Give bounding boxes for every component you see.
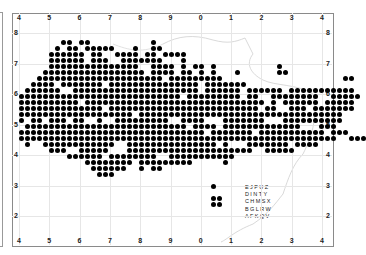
data-point-dot: [55, 112, 60, 117]
data-point-dot: [103, 58, 108, 63]
data-point-dot: [127, 136, 132, 141]
data-point-dot: [199, 154, 204, 159]
data-point-dot: [85, 76, 90, 81]
data-point-dot: [193, 112, 198, 117]
data-point-dot: [235, 148, 240, 153]
data-point-dot: [193, 64, 198, 69]
data-point-dot: [43, 112, 48, 117]
x-tick-label-bottom: 4: [17, 237, 21, 244]
data-point-dot: [85, 148, 90, 153]
data-point-dot: [103, 160, 108, 165]
data-point-dot: [307, 142, 312, 147]
data-point-dot: [253, 100, 258, 105]
data-point-dot: [109, 136, 114, 141]
data-point-dot: [349, 94, 354, 99]
data-point-dot: [301, 100, 306, 105]
data-point-dot: [91, 124, 96, 129]
data-point-dot: [109, 76, 114, 81]
data-point-dot: [79, 88, 84, 93]
data-point-dot: [157, 112, 162, 117]
data-point-dot: [307, 118, 312, 123]
data-point-dot: [181, 112, 186, 117]
data-point-dot: [271, 130, 276, 135]
data-point-dot: [115, 154, 120, 159]
data-point-dot: [67, 112, 72, 117]
data-point-dot: [307, 100, 312, 105]
data-point-dot: [151, 94, 156, 99]
data-point-dot: [157, 124, 162, 129]
data-point-dot: [163, 94, 168, 99]
data-point-dot: [145, 142, 150, 147]
data-point-dot: [127, 64, 132, 69]
data-point-dot: [349, 88, 354, 93]
data-point-dot: [19, 130, 24, 135]
data-point-dot: [43, 106, 48, 111]
data-point-dot: [247, 106, 252, 111]
data-point-dot: [67, 82, 72, 87]
data-point-dot: [283, 124, 288, 129]
data-point-dot: [73, 46, 78, 51]
data-point-dot: [277, 124, 282, 129]
data-point-dot: [205, 154, 210, 159]
data-point-dot: [301, 112, 306, 117]
data-point-dot: [145, 52, 150, 57]
data-point-dot: [169, 106, 174, 111]
data-point-dot: [313, 136, 318, 141]
data-point-dot: [181, 88, 186, 93]
data-point-dot: [271, 136, 276, 141]
data-point-dot: [241, 106, 246, 111]
data-point-dot: [97, 172, 102, 177]
data-point-dot: [289, 124, 294, 129]
data-point-dot: [223, 112, 228, 117]
data-point-dot: [139, 100, 144, 105]
data-point-dot: [151, 46, 156, 51]
x-tick-label-bottom: 8: [138, 237, 142, 244]
data-point-dot: [253, 136, 258, 141]
data-point-dot: [67, 46, 72, 51]
data-point-dot: [121, 136, 126, 141]
data-point-dot: [211, 82, 216, 87]
data-point-dot: [49, 118, 54, 123]
data-point-dot: [301, 142, 306, 147]
data-point-dot: [79, 58, 84, 63]
data-point-dot: [97, 160, 102, 165]
data-point-dot: [151, 76, 156, 81]
data-point-dot: [169, 52, 174, 57]
data-point-dot: [91, 142, 96, 147]
data-point-dot: [67, 106, 72, 111]
data-point-dot: [211, 130, 216, 135]
data-point-dot: [307, 130, 312, 135]
data-point-dot: [67, 70, 72, 75]
data-point-dot: [193, 136, 198, 141]
data-point-dot: [79, 130, 84, 135]
data-point-dot: [307, 136, 312, 141]
data-point-dot: [91, 58, 96, 63]
data-point-dot: [169, 88, 174, 93]
data-point-dot: [127, 154, 132, 159]
reference-code-row: DINTY: [245, 191, 272, 198]
data-point-dot: [85, 136, 90, 141]
data-point-dot: [175, 124, 180, 129]
data-point-dot: [229, 112, 234, 117]
data-point-dot: [175, 142, 180, 147]
data-point-dot: [247, 118, 252, 123]
data-point-dot: [127, 142, 132, 147]
data-point-dot: [211, 124, 216, 129]
data-point-dot: [121, 118, 126, 123]
data-point-dot: [139, 142, 144, 147]
x-tick-label-bottom: 7: [108, 237, 112, 244]
data-point-dot: [199, 70, 204, 75]
data-point-dot: [49, 58, 54, 63]
data-point-dot: [319, 124, 324, 129]
y-tick-label-left: 8: [14, 29, 18, 36]
data-point-dot: [175, 52, 180, 57]
x-tick-label-top: 9: [169, 14, 173, 21]
data-point-dot: [115, 124, 120, 129]
data-point-dot: [85, 100, 90, 105]
data-point-dot: [253, 88, 258, 93]
y-tick-label-left: 5: [14, 121, 18, 128]
data-point-dot: [55, 118, 60, 123]
data-point-dot: [67, 142, 72, 147]
data-point-dot: [187, 88, 192, 93]
data-point-dot: [295, 118, 300, 123]
